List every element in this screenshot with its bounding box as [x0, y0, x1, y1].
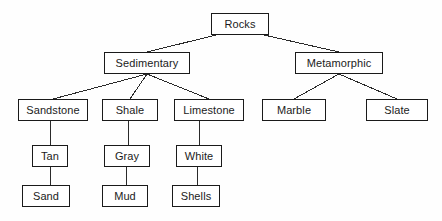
edge-sedimentary-to-sandstone — [53, 74, 147, 99]
edge-rocks-to-metamorphic — [264, 35, 339, 52]
node-label-white: White — [185, 150, 214, 161]
node-sedimentary[interactable]: Sedimentary — [104, 52, 190, 74]
node-label-tan: Tan — [41, 150, 59, 161]
node-shells[interactable]: Shells — [172, 185, 220, 207]
node-gray[interactable]: Gray — [104, 145, 150, 167]
edge-metamorphic-to-slate — [339, 74, 397, 99]
edge-metamorphic-to-marble — [294, 74, 339, 99]
node-label-rocks: Rocks — [224, 18, 255, 29]
node-label-limestone: Limestone — [183, 104, 235, 115]
node-label-sandstone: Sandstone — [26, 104, 80, 115]
node-slate[interactable]: Slate — [366, 99, 428, 121]
edge-rocks-to-sedimentary — [147, 35, 216, 52]
node-white[interactable]: White — [176, 145, 222, 167]
node-metamorphic[interactable]: Metamorphic — [295, 52, 383, 74]
node-shale[interactable]: Shale — [102, 99, 158, 121]
node-label-shells: Shells — [181, 190, 212, 201]
node-sand[interactable]: Sand — [22, 185, 70, 207]
node-label-sand: Sand — [33, 190, 59, 201]
edge-sedimentary-to-limestone — [147, 74, 209, 99]
node-sandstone[interactable]: Sandstone — [18, 99, 88, 121]
edge-sedimentary-to-shale — [130, 74, 147, 99]
node-label-gray: Gray — [115, 150, 139, 161]
node-tan[interactable]: Tan — [32, 145, 68, 167]
node-label-mud: Mud — [114, 190, 136, 201]
node-label-shale: Shale — [116, 104, 145, 115]
node-marble[interactable]: Marble — [262, 99, 326, 121]
node-label-marble: Marble — [277, 104, 311, 115]
rocks-classification-diagram: RocksSedimentaryMetamorphicSandstoneShal… — [0, 0, 442, 221]
node-label-sedimentary: Sedimentary — [116, 57, 179, 68]
node-label-metamorphic: Metamorphic — [307, 57, 372, 68]
node-rocks[interactable]: Rocks — [211, 13, 269, 35]
node-mud[interactable]: Mud — [102, 185, 148, 207]
node-label-slate: Slate — [384, 104, 410, 115]
node-limestone[interactable]: Limestone — [174, 99, 244, 121]
